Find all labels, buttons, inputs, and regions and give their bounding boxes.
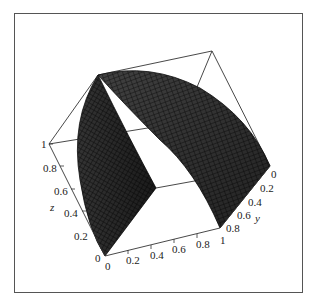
z-tick-0.2: 0.2 (74, 230, 88, 242)
y-tick-0.8: 0.8 (226, 222, 240, 234)
z-tick-0: 0 (95, 252, 101, 264)
y-tick-0: 0 (271, 168, 277, 180)
z-tick-0.8: 0.8 (43, 162, 57, 174)
z-tick-0.6: 0.6 (54, 185, 68, 197)
x-tick-0.2: 0.2 (126, 254, 140, 266)
y-tick-0.6: 0.6 (237, 209, 251, 221)
z-axis-label: z (49, 201, 55, 213)
y-tick-0.2: 0.2 (260, 182, 274, 194)
surface-plot: 1 0.8 0.6 z 0.4 0.2 0 0 0.2 0.4 0.6 0.8 … (0, 0, 309, 302)
y-tick-0.4: 0.4 (248, 196, 262, 208)
x-tick-0.8: 0.8 (196, 238, 210, 250)
z-tick-0.4: 0.4 (64, 207, 78, 219)
y-axis-label: y (254, 212, 260, 224)
x-tick-0.6: 0.6 (172, 243, 186, 255)
x-tick-1: 1 (220, 234, 226, 246)
x-tick-0: 0 (105, 260, 111, 272)
x-tick-0.4: 0.4 (150, 249, 164, 261)
z-tick-1: 1 (41, 138, 47, 150)
